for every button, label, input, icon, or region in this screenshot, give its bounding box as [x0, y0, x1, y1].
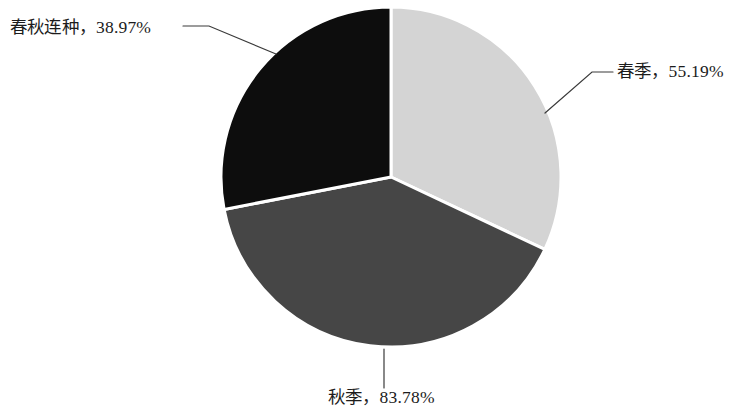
pie-label-autumn: 秋季，83.78%: [328, 389, 435, 407]
pie-label-spring: 春季，55.19%: [617, 63, 724, 81]
pie-chart-figure: 春秋连种，38.97% 春季，55.19% 秋季，83.78%: [0, 0, 744, 417]
pie-slice-spring-autumn[interactable]: [221, 7, 391, 209]
pie-label-spring-autumn: 春秋连种，38.97%: [10, 19, 151, 37]
leader-line-spring: [545, 72, 613, 113]
pie-slices-group: [221, 7, 561, 347]
leader-line-spring-autumn: [183, 26, 276, 54]
